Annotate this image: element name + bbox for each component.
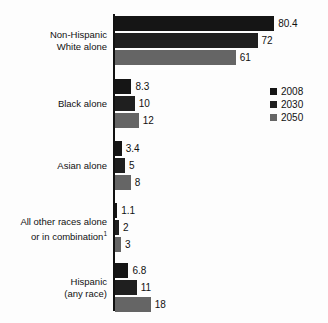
- bar-value-label: 80.4: [274, 16, 297, 31]
- footnote-marker: 1: [103, 230, 107, 237]
- legend-swatch-icon: [270, 101, 277, 108]
- legend-swatch-icon: [270, 88, 277, 95]
- bar-value-label: 8.3: [131, 79, 149, 94]
- bar: [115, 16, 274, 31]
- bar-value-label: 72: [258, 33, 273, 48]
- bar: [115, 263, 128, 278]
- legend-label: 2008: [281, 86, 303, 97]
- category-label-line: Hispanic: [0, 276, 107, 288]
- category-label: Asian alone: [0, 160, 107, 172]
- bar-value-label: 11: [137, 280, 151, 295]
- bar-value-label: 8: [131, 175, 141, 190]
- bar-value-label: 6.8: [128, 263, 146, 278]
- bar-value-label: 10: [135, 96, 150, 111]
- legend-item: 2008: [270, 86, 303, 97]
- category-label: All other races aloneor in combination1: [0, 216, 107, 242]
- category-label-line: Non-Hispanic: [0, 29, 107, 41]
- legend-label: 2030: [281, 99, 303, 110]
- legend-item: 2050: [270, 112, 303, 123]
- category-label-line: White alone: [0, 41, 107, 53]
- bar: [115, 175, 131, 190]
- bar: [115, 158, 125, 173]
- bar: [115, 96, 135, 111]
- bar: [115, 297, 151, 312]
- category-label-line: Asian alone: [0, 160, 107, 172]
- category-label: Hispanic(any race): [0, 276, 107, 299]
- bar-value-label: 3.4: [122, 141, 140, 156]
- legend-label: 2050: [281, 112, 303, 123]
- category-label-line: Black alone: [0, 98, 107, 110]
- category-label-line: All other races alone: [0, 216, 107, 228]
- bar: [115, 280, 137, 295]
- bar-value-label: 2: [119, 220, 129, 235]
- bar-value-label: 18: [151, 297, 166, 312]
- bar: [115, 113, 139, 128]
- category-label-line: or in combination1: [0, 228, 107, 243]
- bar: [115, 50, 236, 65]
- bar-value-label: 5: [125, 158, 135, 173]
- bar-value-label: 3: [121, 237, 131, 252]
- bar-value-label: 61: [236, 50, 251, 65]
- chart-legend: 200820302050: [270, 86, 303, 125]
- category-label: Non-HispanicWhite alone: [0, 29, 107, 52]
- category-label: Black alone: [0, 98, 107, 110]
- bar-value-label: 12: [139, 113, 154, 128]
- legend-swatch-icon: [270, 114, 277, 121]
- category-label-line: (any race): [0, 288, 107, 300]
- bar: [115, 79, 131, 94]
- bar-chart: Non-HispanicWhite alone80.47261Black alo…: [0, 0, 328, 323]
- bar: [115, 141, 122, 156]
- bar: [115, 33, 258, 48]
- bar-value-label: 1.1: [117, 203, 135, 218]
- legend-item: 2030: [270, 99, 303, 110]
